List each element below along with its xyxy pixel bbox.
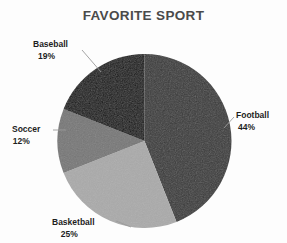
pie-label-soccer-percent: 12% xyxy=(12,136,40,148)
pie-label-football-percent: 44% xyxy=(236,122,269,134)
pie-label-soccer: Soccer 12% xyxy=(12,124,40,147)
pie-label-baseball-name: Baseball xyxy=(33,39,68,51)
pie-label-football-name: Football xyxy=(236,110,269,122)
pie-label-basketball: Basketball 25% xyxy=(52,217,95,240)
pie-label-soccer-name: Soccer xyxy=(12,124,40,136)
pie-label-baseball-percent: 19% xyxy=(33,51,68,63)
pie-label-baseball: Baseball 19% xyxy=(33,39,68,62)
pie-label-basketball-percent: 25% xyxy=(52,229,95,241)
leader-line-baseball xyxy=(82,50,101,72)
pie-chart-figure: FAVORITE SPORT xyxy=(0,0,287,243)
pie-label-football: Football 44% xyxy=(236,110,269,133)
pie-label-basketball-name: Basketball xyxy=(52,217,95,229)
